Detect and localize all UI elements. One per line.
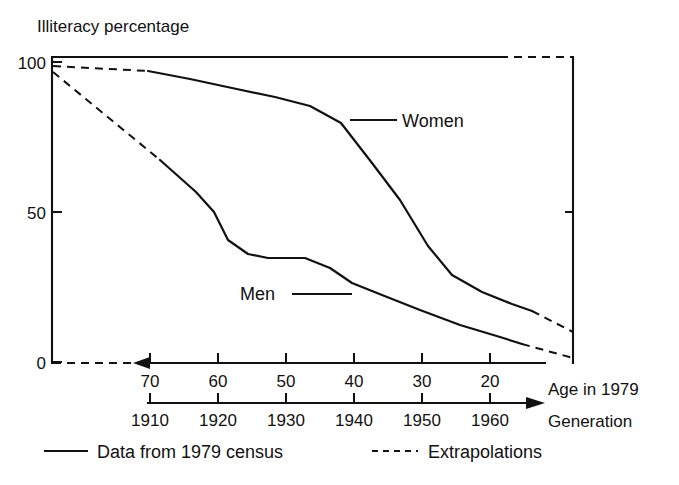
y-tick-label-0: 0 bbox=[37, 354, 46, 373]
generation-tick-label-1960: 1960 bbox=[471, 411, 509, 430]
series-men-label: Men bbox=[240, 284, 275, 304]
series-women-extrapolation-left bbox=[53, 66, 148, 71]
y-tick-label-50: 50 bbox=[27, 204, 46, 223]
series-women-extrapolation-right bbox=[532, 311, 573, 332]
generation-tick-label-1940: 1940 bbox=[335, 411, 373, 430]
age-tick-label-50: 50 bbox=[277, 372, 296, 391]
legend-label-extrapolations: Extrapolations bbox=[428, 442, 542, 462]
age-tick-label-40: 40 bbox=[345, 372, 364, 391]
y-tick-label-100: 100 bbox=[18, 54, 46, 73]
generation-tick-label-1950: 1950 bbox=[403, 411, 441, 430]
chart-canvas: 100 50 0 Illiteracy percentage Women Men bbox=[0, 0, 679, 485]
y-axis-title: Illiteracy percentage bbox=[37, 17, 189, 36]
series-men-line bbox=[160, 160, 522, 344]
axis-generation-title: Generation bbox=[548, 412, 632, 431]
age-tick-label-30: 30 bbox=[413, 372, 432, 391]
axis-generation-arrow-right bbox=[526, 397, 545, 409]
legend-label-census: Data from 1979 census bbox=[97, 442, 283, 462]
generation-tick-label-1920: 1920 bbox=[199, 411, 237, 430]
generation-tick-label-1930: 1930 bbox=[267, 411, 305, 430]
axis-age-title: Age in 1979 bbox=[548, 380, 639, 399]
age-tick-label-20: 20 bbox=[481, 372, 500, 391]
series-women-label: Women bbox=[402, 111, 464, 131]
age-tick-label-70: 70 bbox=[141, 372, 160, 391]
figure-illiteracy-by-generation: 100 50 0 Illiteracy percentage Women Men bbox=[0, 0, 679, 485]
generation-tick-label-1910: 1910 bbox=[131, 411, 169, 430]
series-men-extrapolation-right bbox=[522, 344, 573, 358]
age-tick-label-60: 60 bbox=[209, 372, 228, 391]
series-men-extrapolation-left bbox=[53, 72, 160, 160]
